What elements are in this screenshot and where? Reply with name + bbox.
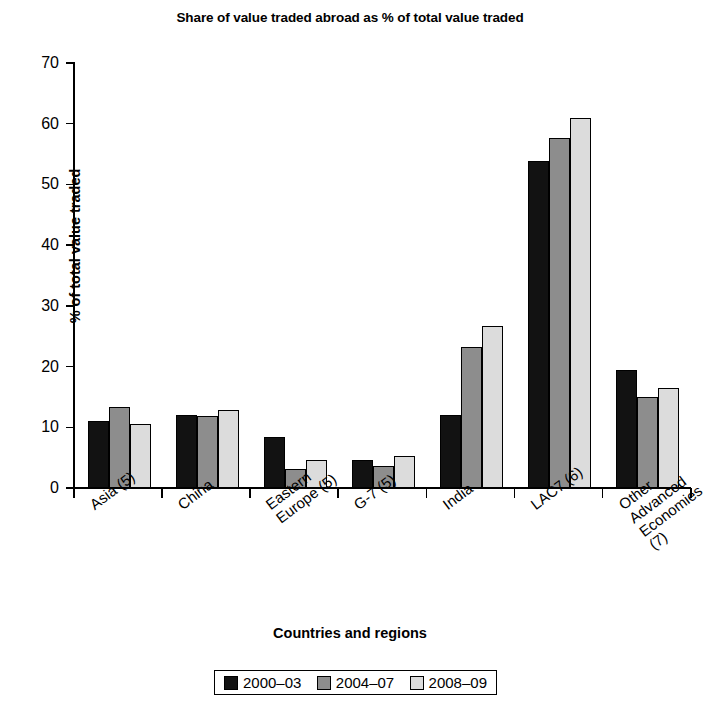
legend-swatch-icon bbox=[317, 676, 331, 690]
y-axis-tick-label: 0 bbox=[13, 480, 59, 496]
x-axis-tick bbox=[514, 488, 516, 498]
legend-swatch-icon bbox=[224, 676, 238, 690]
bar bbox=[549, 138, 570, 488]
y-axis-tick bbox=[66, 487, 73, 489]
y-axis-tick bbox=[66, 123, 73, 125]
y-axis-tick-label: 40 bbox=[13, 237, 59, 253]
legend-label: 2000–03 bbox=[243, 674, 301, 691]
x-axis-tick bbox=[602, 488, 604, 498]
legend-item[interactable]: 2008–09 bbox=[410, 674, 487, 691]
y-axis-tick-label: 50 bbox=[13, 176, 59, 192]
bar bbox=[616, 370, 637, 488]
bar bbox=[88, 421, 109, 488]
bar bbox=[461, 347, 482, 488]
bar bbox=[264, 437, 285, 488]
x-axis-tick bbox=[73, 488, 75, 498]
y-axis-tick bbox=[66, 366, 73, 368]
chart-legend: 2000–032004–072008–09 bbox=[214, 670, 497, 695]
x-axis-tick bbox=[426, 488, 428, 498]
bar bbox=[176, 415, 197, 488]
x-axis-title: Countries and regions bbox=[0, 625, 700, 641]
y-axis-tick-label: 60 bbox=[13, 116, 59, 132]
y-axis-tick bbox=[66, 305, 73, 307]
y-axis-tick bbox=[66, 244, 73, 246]
x-axis-tick bbox=[249, 488, 251, 498]
y-axis-tick-label: 70 bbox=[13, 55, 59, 71]
x-axis-tick bbox=[337, 488, 339, 498]
plot-area: % of total value traded 010203040506070 bbox=[73, 63, 690, 488]
y-axis-tick bbox=[66, 62, 73, 64]
y-axis-tick-label: 20 bbox=[13, 359, 59, 375]
bar bbox=[218, 410, 239, 488]
bar bbox=[570, 118, 591, 488]
bar bbox=[440, 415, 461, 488]
bar bbox=[482, 326, 503, 488]
legend-item[interactable]: 2004–07 bbox=[317, 674, 394, 691]
y-axis-tick-label: 30 bbox=[13, 298, 59, 314]
chart-title: Share of value traded abroad as % of tot… bbox=[0, 10, 700, 25]
x-axis-tick bbox=[161, 488, 163, 498]
legend-label: 2008–09 bbox=[429, 674, 487, 691]
legend-label: 2004–07 bbox=[336, 674, 394, 691]
y-axis-tick bbox=[66, 427, 73, 429]
legend-item[interactable]: 2000–03 bbox=[224, 674, 301, 691]
bar bbox=[528, 161, 549, 488]
legend-swatch-icon bbox=[410, 676, 424, 690]
y-axis-tick bbox=[66, 184, 73, 186]
y-axis-tick-label: 10 bbox=[13, 419, 59, 435]
